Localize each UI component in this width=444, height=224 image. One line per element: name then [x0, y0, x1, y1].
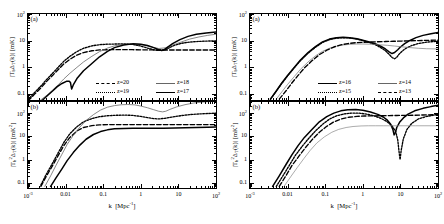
- panel-group-left: (a)z=20z=18z=19z=17(b)1021010.11021010.1…: [0, 0, 222, 224]
- x-tick: [430, 98, 431, 100]
- y-tick: [250, 18, 252, 19]
- y-tick: [436, 129, 438, 130]
- y-tick: [436, 143, 438, 144]
- y-tick: [436, 169, 438, 170]
- x-tick: [310, 102, 311, 104]
- x-tick: [173, 102, 174, 104]
- y-tick: [28, 140, 30, 141]
- y-tick: [214, 163, 216, 164]
- x-tick: [268, 98, 269, 100]
- x-tick: [28, 14, 29, 18]
- x-tick: [103, 102, 104, 106]
- x-tick: [51, 98, 52, 100]
- y-tick: [214, 49, 216, 50]
- x-tick: [141, 184, 142, 188]
- x-tick: [385, 98, 386, 100]
- y-tick: [214, 120, 216, 121]
- legend-row: z=19z=17: [96, 88, 212, 97]
- plot-panel-left-b: (b): [27, 101, 217, 189]
- y-tick: [214, 143, 216, 144]
- y-tick: [28, 161, 30, 162]
- y-tick: [214, 165, 216, 166]
- x-tick: [325, 102, 326, 106]
- x-tick: [434, 186, 435, 188]
- x-tick: [423, 98, 424, 100]
- x-tick: [322, 102, 323, 104]
- y-tick: [436, 72, 438, 73]
- y-tick: [28, 94, 32, 95]
- y-tick: [28, 118, 30, 119]
- curve-z-16: [273, 105, 438, 186]
- y-tick: [214, 86, 216, 87]
- x-tick: [121, 102, 122, 104]
- x-tick: [284, 186, 285, 188]
- x-tick: [348, 98, 349, 100]
- x-tick: [282, 102, 283, 104]
- y-tick: [28, 146, 30, 147]
- y-tick: [28, 73, 30, 74]
- x-tick: [427, 186, 428, 188]
- y-tick: [28, 137, 30, 138]
- y-tick: [436, 43, 438, 44]
- x-tick: [135, 14, 136, 16]
- x-tick: [66, 96, 67, 100]
- y-tick: [212, 94, 216, 95]
- y-tick: [250, 146, 252, 147]
- x-tick: [397, 14, 398, 16]
- y-tick: [28, 165, 30, 166]
- y-tick: [250, 70, 252, 71]
- x-tick: [314, 14, 315, 16]
- x-tick: [351, 186, 352, 188]
- y-tick: [436, 140, 438, 141]
- x-tick: [54, 102, 55, 104]
- y-tick: [436, 142, 438, 143]
- x-tick: [135, 186, 136, 188]
- y-tick: [250, 59, 252, 60]
- legend-row: z=20z=18: [96, 79, 212, 88]
- y-tick: [436, 73, 438, 74]
- x-tick: [175, 186, 176, 188]
- x-tick: [434, 98, 435, 100]
- y-tick: [434, 113, 438, 114]
- x-tick: [216, 102, 217, 106]
- x-tick-label: 0.1: [309, 191, 341, 197]
- y-tick: [436, 81, 438, 82]
- y-tick: [436, 117, 438, 118]
- y-tick: [214, 140, 216, 141]
- x-tick: [374, 14, 375, 16]
- x-tick: [306, 14, 307, 16]
- x-tick: [299, 98, 300, 100]
- x-tick: [363, 102, 364, 106]
- x-tick: [343, 186, 344, 188]
- x-tick: [418, 98, 419, 100]
- x-tick: [412, 102, 413, 104]
- x-tick: [418, 186, 419, 188]
- x-tick: [57, 98, 58, 100]
- y-tick: [214, 20, 216, 21]
- x-tick: [95, 98, 96, 100]
- x-tick-label: 1: [125, 191, 157, 197]
- legend-label: z=19: [117, 88, 129, 94]
- x-tick: [175, 14, 176, 16]
- x-tick: [322, 14, 323, 16]
- y-tick: [214, 129, 216, 130]
- x-tick: [84, 98, 85, 100]
- y-tick: [436, 167, 438, 168]
- x-tick: [357, 186, 358, 188]
- x-tick: [77, 14, 78, 16]
- x-tick: [430, 102, 431, 104]
- legend-line-swatch: [96, 92, 115, 93]
- y-tick: [214, 167, 216, 168]
- x-tick: [392, 186, 393, 188]
- x-tick: [430, 186, 431, 188]
- y-tick: [250, 94, 254, 95]
- y-tick: [436, 106, 438, 107]
- x-tick: [306, 98, 307, 100]
- curve-z-14: [279, 115, 438, 187]
- x-tick: [412, 14, 413, 16]
- y-tick: [436, 137, 438, 138]
- x-tick: [190, 102, 191, 104]
- x-tick: [299, 186, 300, 188]
- x-tick: [276, 102, 277, 104]
- x-tick: [381, 186, 382, 188]
